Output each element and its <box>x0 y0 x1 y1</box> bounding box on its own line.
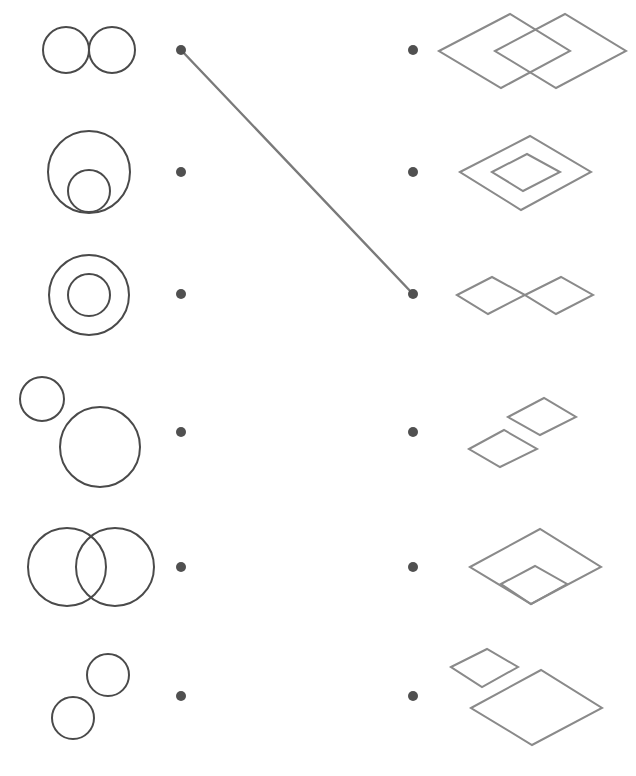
connection-line[interactable] <box>181 50 413 294</box>
figure-two-tangent-circles <box>43 27 135 73</box>
left-dot-2[interactable] <box>176 167 186 177</box>
figure-vertex-touching-rhombuses <box>457 277 593 314</box>
right-dot-2[interactable] <box>408 167 418 177</box>
connection-lines <box>181 50 413 294</box>
right-dot-4[interactable] <box>408 427 418 437</box>
circle-shape <box>49 255 129 335</box>
figure-overlapping-rhombuses <box>439 14 626 88</box>
circle-shape <box>68 274 110 316</box>
matching-worksheet <box>0 0 636 776</box>
rhombus-shape <box>525 277 593 314</box>
circle-shape <box>20 377 64 421</box>
rhombus-shape <box>495 14 626 88</box>
rhombus-shape <box>492 154 560 191</box>
circle-shape <box>28 528 106 606</box>
rhombus-shape <box>451 649 518 687</box>
figure-separate-rhombuses <box>469 398 576 467</box>
right-dot-1[interactable] <box>408 45 418 55</box>
right-dot-6[interactable] <box>408 691 418 701</box>
figure-internally-tangent-circles <box>48 131 130 213</box>
left-dot-1[interactable] <box>176 45 186 55</box>
figure-concentric-circles <box>49 255 129 335</box>
figure-separate-circles-equal <box>52 654 129 739</box>
right-dot-5[interactable] <box>408 562 418 572</box>
left-dot-5[interactable] <box>176 562 186 572</box>
left-dot-3[interactable] <box>176 289 186 299</box>
circle-figures <box>20 27 154 739</box>
rhombus-shape <box>439 14 570 88</box>
circle-shape <box>68 170 110 212</box>
right-match-dots <box>408 45 418 701</box>
circle-shape <box>52 697 94 739</box>
left-match-dots <box>176 45 186 701</box>
left-dot-4[interactable] <box>176 427 186 437</box>
rhombus-shape <box>460 136 591 210</box>
figure-separate-rhombuses-small-large <box>451 649 602 745</box>
circle-shape <box>87 654 129 696</box>
rhombus-shape <box>457 277 525 314</box>
figure-corner-nested-rhombuses <box>470 529 601 604</box>
left-dot-6[interactable] <box>176 691 186 701</box>
rhombus-shape <box>469 430 537 467</box>
circle-shape <box>43 27 89 73</box>
rhombus-figures <box>439 14 626 745</box>
circle-shape <box>60 407 140 487</box>
circle-shape <box>76 528 154 606</box>
figure-nested-rhombuses <box>460 136 591 210</box>
right-dot-3[interactable] <box>408 289 418 299</box>
rhombus-shape <box>501 566 567 604</box>
circle-shape <box>48 131 130 213</box>
rhombus-shape <box>508 398 576 435</box>
circle-shape <box>89 27 135 73</box>
figure-separate-circles-small-large <box>20 377 140 487</box>
figure-overlapping-circles <box>28 528 154 606</box>
